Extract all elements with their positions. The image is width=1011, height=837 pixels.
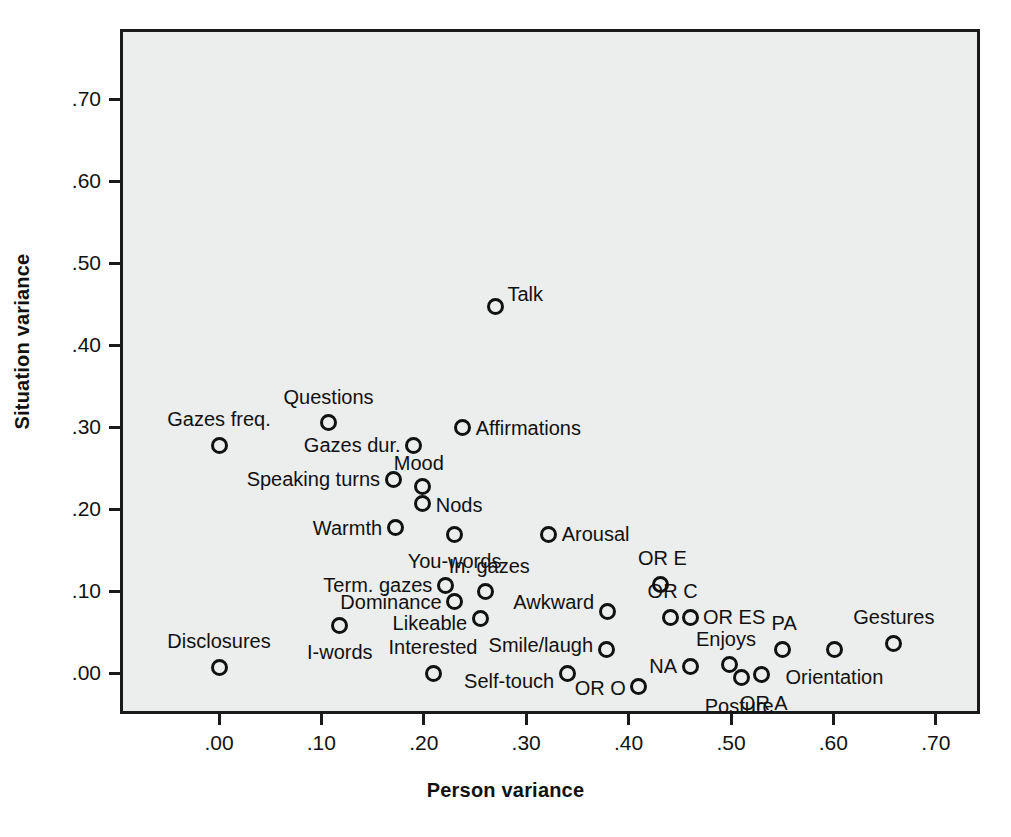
data-point-marker — [682, 609, 699, 626]
data-point-marker — [477, 583, 494, 600]
data-point-label: Affirmations — [476, 418, 581, 438]
data-point-label: Arousal — [562, 524, 630, 544]
y-tick-label: .10 — [53, 580, 101, 601]
x-tick-label: .70 — [906, 732, 966, 753]
data-point-label: NA — [649, 656, 677, 676]
x-tick-label: .40 — [599, 732, 659, 753]
data-point-label: Enjoys — [696, 629, 756, 649]
data-point-label: Gazes freq. — [167, 409, 270, 429]
data-point-label: I-words — [307, 642, 373, 662]
data-point-label: OR E — [638, 548, 687, 568]
data-point-marker — [774, 641, 791, 658]
data-point-marker — [414, 495, 431, 512]
y-tick-mark — [109, 344, 120, 347]
x-tick-mark — [422, 714, 425, 725]
x-tick-mark — [320, 714, 323, 725]
data-point-label: Likeable — [393, 613, 468, 633]
x-tick-label: .50 — [701, 732, 761, 753]
x-tick-mark — [627, 714, 630, 725]
data-point-marker — [487, 298, 504, 315]
x-tick-label: .20 — [394, 732, 454, 753]
data-point-marker — [472, 610, 489, 627]
x-tick-label: .10 — [291, 732, 351, 753]
data-point-marker — [826, 641, 843, 658]
data-point-label: PA — [772, 613, 797, 633]
data-point-label: Speaking turns — [247, 469, 380, 489]
data-point-label: Gazes dur. — [304, 435, 401, 455]
data-point-label: Questions — [284, 387, 374, 407]
data-point-marker — [630, 678, 647, 695]
data-point-marker — [662, 609, 679, 626]
data-point-label: Gestures — [853, 607, 934, 627]
data-point-marker — [733, 669, 750, 686]
data-point-marker — [682, 658, 699, 675]
data-point-label: Disclosures — [167, 631, 270, 651]
y-tick-mark — [109, 672, 120, 675]
scatter-plot-figure: .00.10.20.30.40.50.60.70 .00.10.20.30.40… — [0, 0, 1011, 837]
y-tick-mark — [109, 98, 120, 101]
data-point-label: Self-touch — [464, 671, 554, 691]
x-tick-label: .60 — [803, 732, 863, 753]
x-tick-mark — [218, 714, 221, 725]
x-tick-mark — [525, 714, 528, 725]
y-tick-label: .00 — [53, 662, 101, 683]
data-point-label: OR ES — [703, 607, 765, 627]
x-tick-mark — [832, 714, 835, 725]
data-point-label: OR C — [648, 581, 698, 601]
data-point-marker — [446, 526, 463, 543]
y-tick-mark — [109, 180, 120, 183]
y-tick-label: .30 — [53, 416, 101, 437]
data-point-label: Nods — [436, 495, 483, 515]
data-point-marker — [211, 659, 228, 676]
data-point-label: Mood — [394, 453, 444, 473]
data-point-marker — [540, 526, 557, 543]
y-tick-mark — [109, 508, 120, 511]
y-tick-label: .70 — [53, 88, 101, 109]
y-tick-label: .20 — [53, 498, 101, 519]
data-point-label: Talk — [507, 284, 543, 304]
data-point-marker — [387, 519, 404, 536]
x-tick-label: .00 — [189, 732, 249, 753]
data-point-label: Orientation — [786, 667, 884, 687]
x-tick-label: .30 — [496, 732, 556, 753]
y-tick-label: .50 — [53, 252, 101, 273]
x-axis-title: Person variance — [0, 779, 1011, 802]
y-tick-label: .60 — [53, 170, 101, 191]
data-point-label: Smile/laugh — [489, 635, 594, 655]
y-tick-mark — [109, 262, 120, 265]
y-tick-label: .40 — [53, 334, 101, 355]
data-point-marker — [211, 437, 228, 454]
y-axis-title: Situation variance — [11, 212, 34, 472]
data-point-label: Interested — [389, 637, 478, 657]
y-tick-mark — [109, 426, 120, 429]
data-point-marker — [598, 641, 615, 658]
data-point-label: In. gazes — [449, 556, 530, 576]
y-tick-mark — [109, 590, 120, 593]
data-point-marker — [559, 665, 576, 682]
data-point-marker — [425, 665, 442, 682]
data-point-label: Awkward — [513, 592, 594, 612]
data-point-label: Posture — [705, 696, 774, 716]
data-point-label: Warmth — [313, 518, 382, 538]
data-point-marker — [599, 603, 616, 620]
x-tick-mark — [934, 714, 937, 725]
data-point-label: Dominance — [340, 592, 441, 612]
data-point-label: OR O — [575, 678, 626, 698]
